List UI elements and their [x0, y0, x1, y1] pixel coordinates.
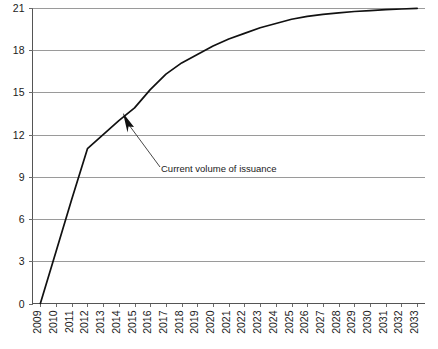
x-tick-label-2019: 2019 [188, 310, 200, 334]
annotation-leader-line [129, 125, 160, 167]
chart-screenshot: 036912151821 200920102011201220132014201… [0, 0, 438, 349]
y-tick-label-15: 15 [13, 86, 25, 98]
x-axis-group: 2009201020112012201320142015201620172018… [31, 304, 426, 334]
x-tick-label-2018: 2018 [173, 310, 185, 334]
x-tick-label-2027: 2027 [314, 310, 326, 334]
y-tick-label-18: 18 [13, 44, 25, 56]
series-group [40, 8, 417, 303]
x-tick-label-2016: 2016 [141, 310, 153, 334]
x-tick-label-2020: 2020 [204, 310, 216, 334]
y-tick-label-3: 3 [19, 255, 25, 267]
x-tick-label-2023: 2023 [251, 310, 263, 334]
x-tick-label-2033: 2033 [408, 310, 420, 334]
chart-svg: 036912151821 200920102011201220132014201… [0, 0, 438, 349]
x-tick-label-2030: 2030 [361, 310, 373, 334]
y-tick-label-12: 12 [13, 129, 25, 141]
y-axis-group: 036912151821 [13, 2, 33, 310]
y-tick-label-21: 21 [13, 2, 25, 14]
x-tick-label-2013: 2013 [94, 310, 106, 334]
series-line-cumulative-issuance [40, 8, 417, 303]
x-tick-label-2026: 2026 [298, 310, 310, 334]
x-tick-label-2029: 2029 [345, 310, 357, 334]
x-tick-label-2009: 2009 [31, 310, 43, 334]
x-tick-label-2024: 2024 [267, 310, 279, 334]
x-tick-label-2028: 2028 [330, 310, 342, 334]
line-chart-figure: 036912151821 200920102011201220132014201… [0, 0, 438, 349]
x-tick-label-2012: 2012 [78, 310, 90, 334]
y-tick-label-9: 9 [19, 171, 25, 183]
x-tick-label-2015: 2015 [126, 310, 138, 334]
x-tick-label-2021: 2021 [220, 310, 232, 334]
annotation-label-current-volume: Current volume of issuance [161, 163, 277, 174]
x-tick-label-2010: 2010 [47, 310, 59, 334]
x-tick-label-2014: 2014 [110, 310, 122, 334]
x-tick-label-2011: 2011 [63, 310, 75, 333]
y-tick-label-0: 0 [19, 298, 25, 310]
x-tick-label-2022: 2022 [235, 310, 247, 334]
x-tick-label-2031: 2031 [377, 310, 389, 334]
x-tick-label-2025: 2025 [283, 310, 295, 334]
x-tick-label-2032: 2032 [392, 310, 404, 334]
y-tick-label-6: 6 [19, 213, 25, 225]
y-tick-marks-group [29, 9, 33, 305]
y-tick-labels-group: 036912151821 [13, 2, 25, 310]
x-tick-label-2017: 2017 [157, 310, 169, 334]
x-tick-labels-group: 2009201020112012201320142015201620172018… [31, 310, 420, 334]
annotation-group: Current volume of issuance [123, 113, 277, 174]
gridlines-group [33, 9, 426, 262]
